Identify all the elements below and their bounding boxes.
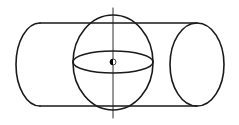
cylinder-left-cap <box>16 23 40 106</box>
diagram-canvas <box>0 0 239 125</box>
cylinder-right-ellipse <box>170 23 224 106</box>
sphere-in-cylinder-diagram <box>0 0 239 125</box>
center-point <box>110 59 116 65</box>
